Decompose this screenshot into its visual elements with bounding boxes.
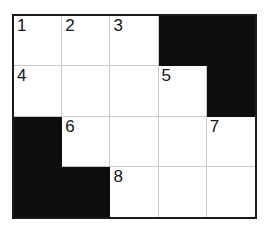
crossword-block-cell bbox=[14, 167, 62, 217]
crossword-open-cell[interactable] bbox=[110, 117, 158, 167]
crossword-open-cell[interactable] bbox=[159, 167, 207, 217]
crossword-grid[interactable]: 12345678 bbox=[12, 14, 257, 219]
crossword-block-cell bbox=[62, 167, 110, 217]
crossword-open-cell[interactable]: 5 bbox=[159, 66, 207, 116]
crossword-block-cell bbox=[159, 16, 207, 66]
crossword-block-cell bbox=[207, 66, 255, 116]
clue-number: 7 bbox=[210, 117, 219, 137]
crossword-open-cell[interactable]: 3 bbox=[110, 16, 158, 66]
clue-number: 1 bbox=[17, 16, 26, 36]
crossword-open-cell[interactable]: 2 bbox=[62, 16, 110, 66]
crossword-block-cell bbox=[207, 16, 255, 66]
crossword-open-cell[interactable]: 6 bbox=[62, 117, 110, 167]
clue-number: 3 bbox=[113, 16, 122, 36]
clue-number: 4 bbox=[17, 66, 26, 86]
crossword-block-cell bbox=[14, 117, 62, 167]
crossword-open-cell[interactable]: 8 bbox=[110, 167, 158, 217]
clue-number: 6 bbox=[65, 117, 74, 137]
clue-number: 5 bbox=[162, 66, 171, 86]
crossword-open-cell[interactable]: 1 bbox=[14, 16, 62, 66]
clue-number: 8 bbox=[113, 167, 122, 187]
crossword-open-cell[interactable] bbox=[110, 66, 158, 116]
crossword-open-cell[interactable]: 4 bbox=[14, 66, 62, 116]
crossword-open-cell[interactable] bbox=[207, 167, 255, 217]
crossword-open-cell[interactable]: 7 bbox=[207, 117, 255, 167]
clue-number: 2 bbox=[65, 16, 74, 36]
crossword-open-cell[interactable] bbox=[159, 117, 207, 167]
crossword-open-cell[interactable] bbox=[62, 66, 110, 116]
puzzle-stage: 12345678 bbox=[0, 0, 271, 232]
